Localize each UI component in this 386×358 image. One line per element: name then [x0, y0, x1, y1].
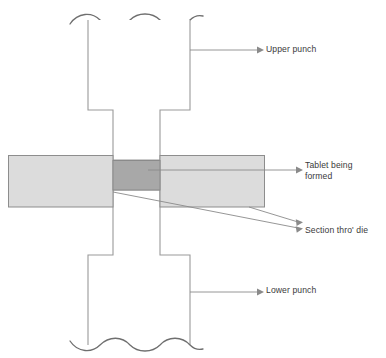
- lower-punch-outline: [88, 190, 190, 345]
- tablet-press-diagram: Upper punch Tablet being formed Section …: [0, 0, 386, 358]
- lower-punch-group: [70, 190, 203, 351]
- label-tablet-being-formed: Tablet being formed: [305, 160, 353, 182]
- upper-punch-outline: [88, 20, 190, 160]
- die-block-left: [9, 156, 114, 208]
- label-lower-punch: Lower punch: [266, 285, 316, 296]
- tablet-being-formed: [113, 161, 160, 191]
- upper-punch-arrowhead: [257, 47, 264, 54]
- section-die-arrowhead-upper: [296, 219, 303, 226]
- tablet-arrowhead: [296, 167, 303, 174]
- label-section-thro-die: Section thro' die: [305, 225, 368, 236]
- section-die-arrowhead-lower: [296, 226, 303, 233]
- label-upper-punch: Upper punch: [266, 44, 316, 55]
- upper-punch-group: [70, 14, 203, 160]
- die-block-right: [160, 156, 265, 208]
- lower-punch-arrowhead: [257, 289, 264, 296]
